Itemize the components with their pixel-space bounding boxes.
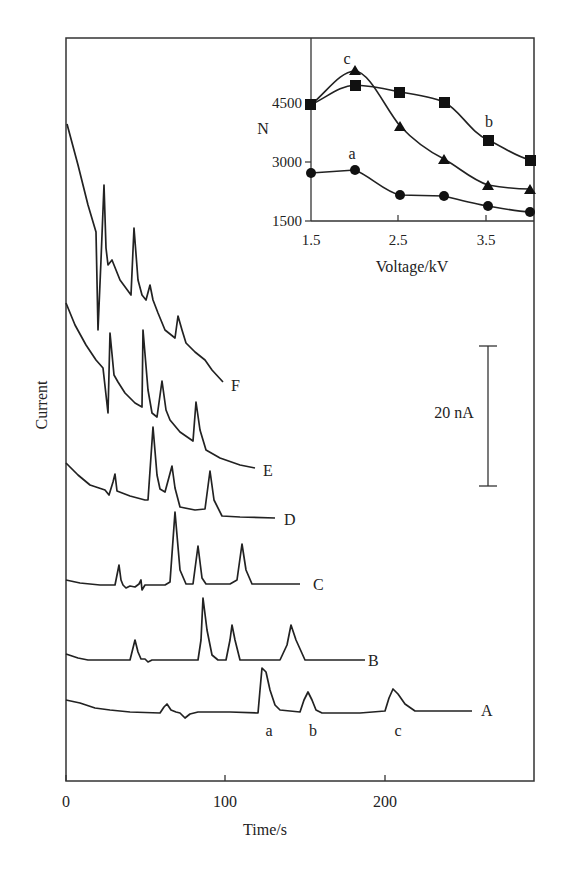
y-axis-label: Current [33, 380, 50, 429]
trace-F [67, 124, 223, 382]
inset-y-tick: 4500 [272, 95, 302, 111]
inset-x-tick: 3.5 [477, 232, 496, 248]
inset-series-label-a: a [348, 145, 355, 162]
scale-bar-label: 20 nA [434, 404, 474, 421]
trace-label-A: A [481, 702, 493, 719]
inset-y-label: N [257, 120, 269, 137]
inset-series-label-c: c [343, 50, 350, 67]
inset-y-tick: 3000 [272, 154, 302, 170]
trace-label-F: F [231, 377, 240, 394]
inset-x-label: Voltage/kV [376, 258, 449, 276]
peak-label-a: a [265, 722, 272, 739]
trace-label-D: D [284, 511, 296, 528]
inset-x-tick: 1.5 [302, 232, 321, 248]
trace-B [66, 598, 365, 662]
inset-series-label-b: b [485, 113, 493, 130]
x-axis-label: Time/s [243, 821, 287, 838]
x-tick-label: 0 [62, 793, 70, 810]
peak-label-b: b [309, 722, 317, 739]
trace-A [66, 668, 472, 718]
trace-D [66, 427, 275, 518]
trace-E [66, 303, 255, 468]
trace-C [66, 512, 300, 590]
x-tick-label: 200 [373, 793, 397, 810]
inset-y-tick: 1500 [272, 213, 302, 229]
chart: 0 100 200 Time/s Current F E D C B A a b… [0, 0, 564, 882]
inset-markers-b [305, 80, 536, 166]
trace-label-E: E [263, 462, 273, 479]
x-axis [66, 775, 385, 781]
trace-label-C: C [313, 576, 324, 593]
x-tick-label: 100 [213, 793, 237, 810]
inset-chart: 4500 3000 1500 1.5 2.5 3.5 Voltage/kV N [257, 38, 536, 276]
scale-bar [479, 346, 497, 486]
trace-label-B: B [368, 652, 379, 669]
peak-label-c: c [394, 722, 401, 739]
inset-series-b-line [311, 85, 530, 160]
inset-markers-c [349, 65, 536, 194]
inset-x-tick: 2.5 [389, 232, 408, 248]
inset-markers-a [306, 165, 535, 217]
inset-series-a-line [311, 170, 530, 212]
